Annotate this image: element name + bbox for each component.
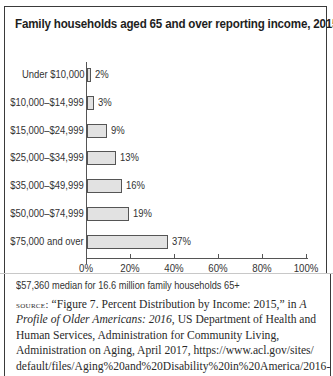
x-tick-label: 80% <box>252 262 271 274</box>
x-tick-label: 100% <box>294 262 319 274</box>
bar <box>87 207 129 221</box>
bar <box>87 96 94 110</box>
category-label: $50,000–$74,999 <box>10 207 84 219</box>
x-tick <box>174 254 175 259</box>
bar-chart: Under $10,0002%$10,000–$14,9993%$15,000–… <box>0 0 333 300</box>
bar <box>87 151 116 165</box>
x-tick-label: 20% <box>120 262 139 274</box>
value-label: 3% <box>98 96 112 108</box>
value-label: 16% <box>126 179 145 191</box>
x-tick <box>306 254 307 259</box>
x-tick <box>86 254 87 259</box>
category-label: $35,000–$49,999 <box>10 179 84 191</box>
category-label: $10,000–$14,999 <box>10 96 84 108</box>
x-axis <box>86 258 308 259</box>
value-label: 13% <box>120 151 139 163</box>
x-tick-label: 60% <box>208 262 227 274</box>
value-label: 2% <box>95 68 109 80</box>
source-text-1: “Figure 7. Percent Distribution by Incom… <box>49 298 300 311</box>
category-label: $25,000–$34,999 <box>10 151 84 163</box>
x-tick <box>262 254 263 259</box>
category-label: Under $10,000 <box>21 68 84 80</box>
value-label: 9% <box>111 124 125 136</box>
bar <box>87 124 107 138</box>
value-label: 37% <box>172 235 191 247</box>
x-tick <box>218 254 219 259</box>
bar <box>87 68 91 82</box>
value-label: 19% <box>133 207 152 219</box>
category-label: $15,000–$24,999 <box>10 124 84 136</box>
x-tick-label: 40% <box>164 262 183 274</box>
x-tick <box>130 254 131 259</box>
median-note: $57,360 median for 16.6 million family h… <box>16 279 240 291</box>
source-label: source: <box>16 299 49 310</box>
source-citation: source: “Figure 7. Percent Distribution … <box>16 297 328 376</box>
bar <box>87 179 122 193</box>
category-label: $75,000 and over <box>10 235 84 247</box>
x-tick-label: 0% <box>79 262 93 274</box>
bar <box>87 235 168 249</box>
